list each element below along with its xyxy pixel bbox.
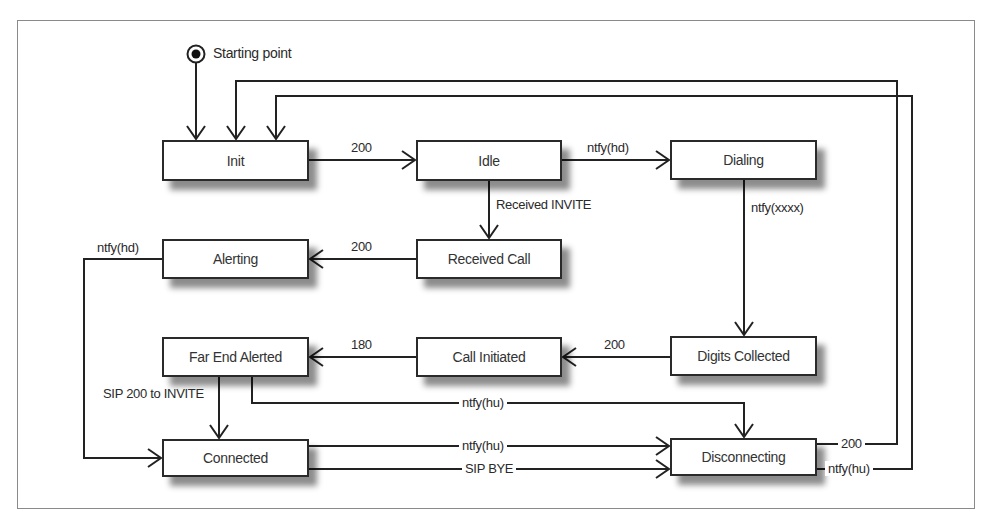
state-received-call: Received Call: [416, 239, 562, 279]
state-connected: Connected: [162, 439, 309, 477]
transition-label-connected-disconnecting-ntfy: ntfy(hu): [459, 438, 507, 453]
transition-label-call-initiated-far-end: 180: [351, 337, 372, 352]
state-label: Digits Collected: [697, 348, 789, 364]
state-call-initiated: Call Initiated: [416, 337, 562, 377]
state-far-end-alerted: Far End Alerted: [162, 337, 309, 377]
transition-label-disconnecting-init-ntfy: ntfy(hu): [825, 461, 873, 476]
state-init: Init: [162, 140, 309, 181]
starting-point-label: Starting point: [213, 46, 291, 61]
transition-label-received-alerting: 200: [351, 239, 372, 254]
transition-label-digits-call-initiated: 200: [604, 337, 625, 352]
transition-label-disconnecting-init-200: 200: [838, 436, 865, 451]
state-label: Received Call: [448, 251, 530, 267]
state-label: Far End Alerted: [189, 349, 282, 365]
state-alerting: Alerting: [162, 239, 309, 279]
state-label: Init: [227, 153, 244, 169]
transition-label-far-end-disconnecting: ntfy(hu): [459, 395, 507, 410]
transition-label-connected-disconnecting-bye: SIP BYE: [462, 461, 516, 476]
state-label: Alerting: [213, 251, 258, 267]
state-label: Idle: [478, 153, 499, 169]
state-label: Connected: [203, 450, 268, 466]
state-disconnecting: Disconnecting: [670, 438, 817, 476]
transition-label-idle-dialing: ntfy(hd): [587, 140, 629, 155]
state-label: Dialing: [723, 152, 764, 168]
transition-label-init-idle: 200: [351, 140, 372, 155]
transition-label-alerting-connected: ntfy(hd): [97, 240, 139, 255]
state-label: Disconnecting: [701, 449, 785, 465]
state-dialing: Dialing: [670, 140, 817, 180]
transition-label-dialing-digits: ntfy(xxxx): [751, 200, 804, 215]
starting-point-icon: [188, 46, 205, 63]
transition-label-idle-received-call: Received INVITE: [496, 197, 591, 212]
state-label: Call Initiated: [453, 349, 526, 365]
transition-label-far-end-connected: SIP 200 to INVITE: [103, 386, 204, 401]
state-digits-collected: Digits Collected: [670, 336, 817, 376]
state-idle: Idle: [416, 140, 562, 181]
